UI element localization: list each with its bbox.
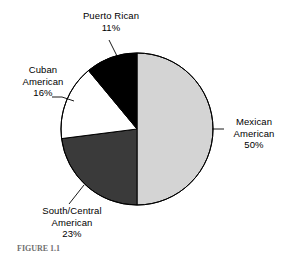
pie-label-mexican-american-value: 50% [224, 139, 284, 151]
pie-label-puerto-rican-name: Puerto Rican [58, 10, 164, 22]
pie-label-cuban-american-value: 16% [4, 87, 82, 99]
pie-slice-south-central-american [62, 129, 137, 205]
pie-label-mexican-american: Mexican American 50% [224, 116, 284, 151]
pie-label-south-central-american-name-line-1: South/Central [16, 205, 128, 217]
figure-container: Puerto Rican 11% Cuban American 16% Mexi… [0, 0, 285, 255]
pie-label-cuban-american: Cuban American 16% [4, 64, 82, 99]
pie-label-cuban-american-name-line-1: Cuban [4, 64, 82, 76]
pie-label-puerto-rican: Puerto Rican 11% [58, 10, 164, 33]
pie-label-south-central-american-name-line-2: American [16, 217, 128, 229]
figure-caption: FIGURE 1.1 [17, 244, 279, 253]
pie-label-puerto-rican-value: 11% [58, 22, 164, 34]
pie-label-cuban-american-name-line-2: American [4, 76, 82, 88]
leader-line-south-central-american [69, 185, 84, 204]
pie-label-mexican-american-name-line-2: American [224, 128, 284, 140]
pie-label-south-central-american: South/Central American 23% [16, 205, 128, 240]
pie-label-south-central-american-value: 23% [16, 228, 128, 240]
pie-label-mexican-american-name-line-1: Mexican [224, 116, 284, 128]
pie-slice-mexican-american [137, 53, 213, 205]
